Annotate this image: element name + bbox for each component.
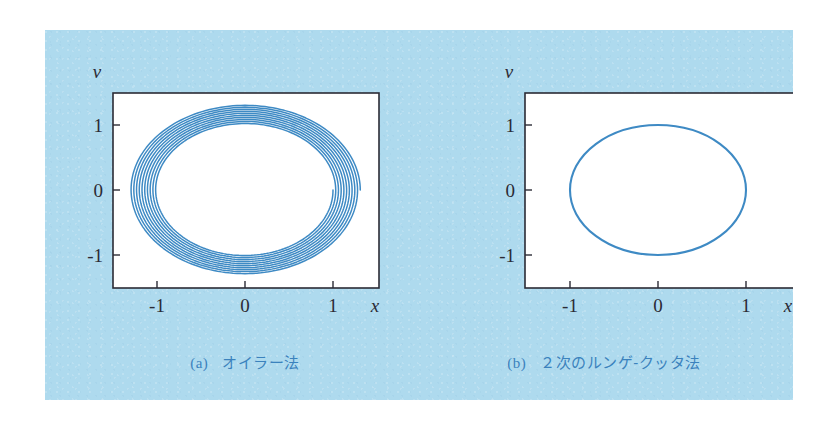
y-tick-label-neg1-b: -1 [499,245,515,266]
subplot-runge-kutta: -1 0 1 1 0 -1 v x (b)２次のルンゲ-クッタ法 [415,30,793,400]
plot-area-runge-kutta: -1 0 1 1 0 -1 v x [415,30,793,330]
y-tick-label-neg1-a: -1 [87,245,103,266]
x-tick-label-1-a: 1 [328,295,338,316]
x-tick-label-1-b: 1 [741,295,751,316]
y-axis-label-a: v [93,61,102,82]
caption-text-b: ２次のルンゲ-クッタ法 [540,354,701,371]
x-axis-label-a: x [370,295,380,316]
caption-tag-b: (b) [507,355,526,371]
plot-frame-runge-kutta [525,93,793,288]
x-tick-label-0-b: 0 [653,295,663,316]
figure-background-panel: -1 0 1 1 0 -1 v x (a)オイラー法 [45,30,793,400]
subplot-euler: -1 0 1 1 0 -1 v x (a)オイラー法 [45,30,445,400]
y-tick-label-1-a: 1 [94,115,104,136]
y-tick-label-0-a: 0 [94,180,104,201]
figure-root: -1 0 1 1 0 -1 v x (a)オイラー法 [0,0,834,426]
plot-area-euler: -1 0 1 1 0 -1 v x [45,30,445,330]
caption-tag-a: (a) [190,355,208,371]
caption-runge-kutta: (b)２次のルンゲ-クッタ法 [415,351,793,372]
caption-text-a: オイラー法 [222,354,300,371]
y-tick-label-1-b: 1 [506,115,516,136]
x-tick-label-0-a: 0 [240,295,250,316]
x-axis-label-b: x [783,295,793,316]
y-axis-label-b: v [505,61,514,82]
y-tick-label-0-b: 0 [506,180,516,201]
caption-euler: (a)オイラー法 [45,351,445,372]
x-tick-label-neg1-b: -1 [562,295,578,316]
x-tick-label-neg1-a: -1 [149,295,165,316]
